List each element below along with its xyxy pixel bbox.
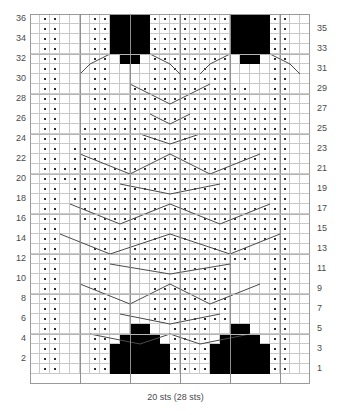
- chart-cell[interactable]: [60, 204, 70, 214]
- chart-cell[interactable]: [60, 344, 70, 354]
- chart-cell[interactable]: [190, 154, 200, 164]
- chart-cell[interactable]: [140, 144, 150, 154]
- chart-cell[interactable]: [120, 84, 130, 94]
- chart-cell[interactable]: [150, 324, 160, 334]
- chart-cell[interactable]: [300, 364, 310, 374]
- chart-cell[interactable]: [90, 14, 100, 24]
- chart-cell[interactable]: [180, 274, 190, 284]
- chart-cell[interactable]: [200, 364, 210, 374]
- chart-cell[interactable]: [130, 164, 140, 174]
- chart-cell[interactable]: [50, 264, 60, 274]
- chart-cell[interactable]: [80, 224, 90, 234]
- chart-cell[interactable]: [240, 264, 250, 274]
- chart-cell[interactable]: [150, 244, 160, 254]
- chart-cell[interactable]: [140, 64, 150, 74]
- chart-cell[interactable]: [80, 274, 90, 284]
- chart-cell[interactable]: [270, 74, 280, 84]
- chart-cell[interactable]: [60, 24, 70, 34]
- chart-cell[interactable]: [270, 184, 280, 194]
- chart-cell[interactable]: [40, 324, 50, 334]
- chart-cell[interactable]: [110, 164, 120, 174]
- chart-cell[interactable]: [170, 174, 180, 184]
- chart-cell[interactable]: [250, 164, 260, 174]
- chart-cell[interactable]: [270, 204, 280, 214]
- chart-cell[interactable]: [290, 194, 300, 204]
- chart-cell[interactable]: [280, 34, 290, 44]
- chart-cell[interactable]: [200, 74, 210, 84]
- chart-cell[interactable]: [100, 134, 110, 144]
- chart-cell[interactable]: [160, 154, 170, 164]
- chart-cell[interactable]: [60, 354, 70, 364]
- chart-cell[interactable]: [280, 124, 290, 134]
- chart-cell[interactable]: [110, 144, 120, 154]
- chart-cell[interactable]: [270, 64, 280, 74]
- chart-cell[interactable]: [130, 284, 140, 294]
- chart-cell[interactable]: [110, 264, 120, 274]
- chart-cell[interactable]: [200, 14, 210, 24]
- chart-cell[interactable]: [70, 314, 80, 324]
- chart-cell[interactable]: [120, 184, 130, 194]
- chart-cell[interactable]: [210, 74, 220, 84]
- chart-cell[interactable]: [240, 144, 250, 154]
- chart-cell[interactable]: [260, 304, 270, 314]
- chart-cell[interactable]: [150, 344, 160, 354]
- chart-cell[interactable]: [270, 194, 280, 204]
- chart-cell[interactable]: [190, 44, 200, 54]
- chart-cell[interactable]: [280, 184, 290, 194]
- chart-cell[interactable]: [200, 94, 210, 104]
- chart-cell[interactable]: [250, 14, 260, 24]
- chart-cell[interactable]: [250, 344, 260, 354]
- chart-cell[interactable]: [100, 314, 110, 324]
- chart-cell[interactable]: [90, 104, 100, 114]
- chart-cell[interactable]: [270, 264, 280, 274]
- chart-cell[interactable]: [260, 104, 270, 114]
- chart-cell[interactable]: [50, 274, 60, 284]
- chart-cell[interactable]: [230, 154, 240, 164]
- chart-cell[interactable]: [170, 264, 180, 274]
- chart-cell[interactable]: [80, 364, 90, 374]
- chart-cell[interactable]: [160, 64, 170, 74]
- chart-cell[interactable]: [60, 284, 70, 294]
- chart-cell[interactable]: [70, 144, 80, 154]
- chart-cell[interactable]: [240, 314, 250, 324]
- chart-cell[interactable]: [290, 104, 300, 114]
- chart-cell[interactable]: [130, 294, 140, 304]
- chart-cell[interactable]: [160, 194, 170, 204]
- chart-cell[interactable]: [30, 334, 40, 344]
- chart-cell[interactable]: [240, 164, 250, 174]
- chart-cell[interactable]: [290, 24, 300, 34]
- chart-cell[interactable]: [250, 54, 260, 64]
- chart-cell[interactable]: [60, 134, 70, 144]
- chart-cell[interactable]: [150, 114, 160, 124]
- chart-cell[interactable]: [230, 54, 240, 64]
- chart-cell[interactable]: [130, 324, 140, 334]
- chart-cell[interactable]: [60, 154, 70, 164]
- chart-cell[interactable]: [220, 134, 230, 144]
- chart-cell[interactable]: [240, 254, 250, 264]
- chart-cell[interactable]: [180, 44, 190, 54]
- chart-cell[interactable]: [70, 274, 80, 284]
- chart-cell[interactable]: [120, 104, 130, 114]
- chart-cell[interactable]: [230, 224, 240, 234]
- chart-cell[interactable]: [230, 124, 240, 134]
- chart-cell[interactable]: [130, 144, 140, 154]
- chart-cell[interactable]: [170, 134, 180, 144]
- chart-cell[interactable]: [90, 344, 100, 354]
- chart-cell[interactable]: [30, 244, 40, 254]
- chart-cell[interactable]: [230, 194, 240, 204]
- chart-cell[interactable]: [70, 24, 80, 34]
- chart-cell[interactable]: [40, 164, 50, 174]
- chart-cell[interactable]: [70, 54, 80, 64]
- chart-cell[interactable]: [220, 264, 230, 274]
- chart-cell[interactable]: [40, 134, 50, 144]
- chart-cell[interactable]: [270, 274, 280, 284]
- chart-cell[interactable]: [70, 104, 80, 114]
- chart-cell[interactable]: [260, 294, 270, 304]
- chart-cell[interactable]: [230, 24, 240, 34]
- chart-cell[interactable]: [90, 314, 100, 324]
- chart-cell[interactable]: [200, 234, 210, 244]
- chart-cell[interactable]: [120, 24, 130, 34]
- chart-cell[interactable]: [140, 244, 150, 254]
- chart-cell[interactable]: [180, 14, 190, 24]
- chart-cell[interactable]: [70, 84, 80, 94]
